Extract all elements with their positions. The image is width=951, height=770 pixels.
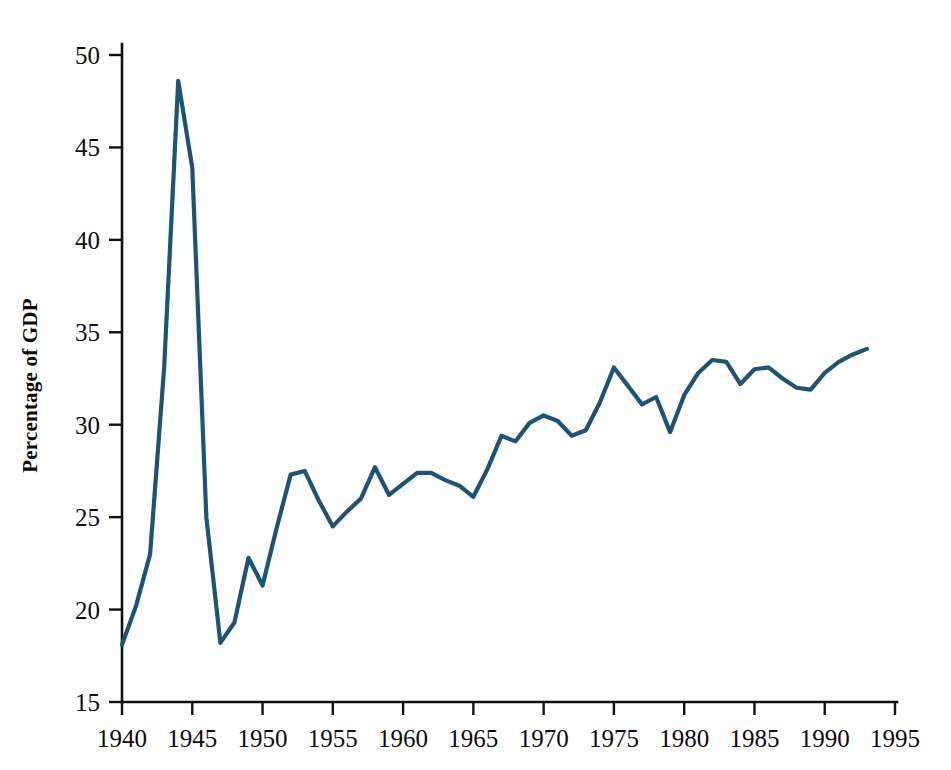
x-tick-label: 1945 [167,725,217,752]
y-axis-tick-marks [109,55,122,702]
x-tick-label: 1995 [870,725,920,752]
y-tick-label: 40 [75,227,100,254]
line-chart-svg: 1520253035404550 19401945195019551960196… [0,0,951,770]
x-tick-label: 1965 [448,725,498,752]
x-tick-label: 1955 [308,725,358,752]
x-tick-label: 1940 [97,725,147,752]
y-tick-label: 30 [75,412,100,439]
x-tick-label: 1960 [378,725,428,752]
y-tick-label: 45 [75,134,100,161]
x-tick-label: 1985 [729,725,779,752]
y-tick-label: 35 [75,319,100,346]
chart-figure: 1520253035404550 19401945195019551960196… [0,0,951,770]
x-tick-label: 1980 [659,725,709,752]
x-tick-label: 1975 [589,725,639,752]
x-axis-tick-labels: 1940194519501955196019651970197519801985… [97,725,920,752]
y-tick-label: 15 [75,689,100,716]
y-axis-tick-labels: 1520253035404550 [75,42,100,716]
x-axis-tick-marks [122,702,895,715]
y-tick-label: 20 [75,597,100,624]
data-series-line [122,81,867,645]
x-tick-label: 1970 [519,725,569,752]
x-tick-label: 1950 [238,725,288,752]
y-tick-label: 25 [75,504,100,531]
y-tick-label: 50 [75,42,100,69]
x-tick-label: 1990 [800,725,850,752]
